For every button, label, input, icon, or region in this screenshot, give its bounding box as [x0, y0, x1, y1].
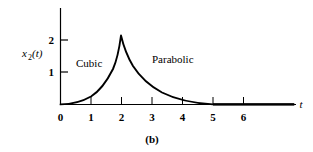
y-axis-label-base: x [21, 47, 27, 59]
curve-x2-of-t [61, 36, 295, 105]
x-tick-label-4: 4 [180, 111, 186, 123]
plot-svg: 2 1 0 1 2 3 4 5 6 x 2 (t) t Cubic Parabo… [0, 0, 313, 152]
y-tick-label-1: 1 [49, 66, 55, 78]
x-tick-label-0: 0 [58, 111, 64, 123]
x-tick-label-6: 6 [241, 111, 247, 123]
x-tick-label-3: 3 [149, 111, 155, 123]
x-tick-label-1: 1 [88, 111, 94, 123]
figure-container: 2 1 0 1 2 3 4 5 6 x 2 (t) t Cubic Parabo… [0, 0, 313, 152]
x-tick-label-2: 2 [119, 111, 125, 123]
y-axis-label: x 2 (t) [21, 47, 43, 62]
y-axis-label-arg: (t) [32, 47, 43, 60]
x-tick-label-5: 5 [210, 111, 216, 123]
y-tick-label-2: 2 [49, 34, 55, 46]
annotation-parabolic: Parabolic [152, 53, 194, 65]
annotation-cubic: Cubic [76, 57, 102, 69]
figure-caption: (b) [145, 133, 159, 146]
x-axis-label: t [299, 98, 303, 110]
